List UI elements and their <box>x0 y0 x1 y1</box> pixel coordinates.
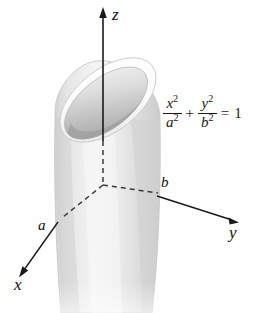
fraction-x-over-a: x2 a2 <box>163 96 182 131</box>
denominator-a-squared: a2 <box>163 115 182 131</box>
exponent-y: 2 <box>208 93 213 104</box>
denominator-b-squared: b2 <box>198 115 217 131</box>
x-axis-label: x <box>14 276 22 293</box>
exponent-b: 2 <box>209 112 214 123</box>
operator-plus: + <box>186 105 194 122</box>
cylinder-surface <box>40 41 180 313</box>
equation-rhs: 1 <box>234 105 242 122</box>
y-axis-label: y <box>229 224 237 241</box>
variable-a: a <box>166 114 174 130</box>
exponent-a: 2 <box>174 112 179 123</box>
parameter-a-label: a <box>38 218 46 233</box>
diagram-canvas <box>0 0 276 313</box>
fraction-y-over-b: y2 b2 <box>198 96 217 131</box>
numerator-x-squared: x2 <box>163 96 181 112</box>
exponent-x: 2 <box>173 93 178 104</box>
z-axis-arrowhead <box>99 7 107 18</box>
operator-equals: = <box>221 105 229 122</box>
cylinder-bottom-fade <box>40 200 180 313</box>
equation-ellipse: x2 a2 + y2 b2 = 1 <box>162 96 242 131</box>
numerator-y-squared: y2 <box>198 96 216 112</box>
variable-b: b <box>201 114 209 130</box>
parameter-b-label: b <box>161 175 169 190</box>
z-axis-label: z <box>112 6 119 23</box>
figure-elliptic-cylinder: z y x a b x2 a2 + y2 b2 = 1 <box>0 0 276 313</box>
